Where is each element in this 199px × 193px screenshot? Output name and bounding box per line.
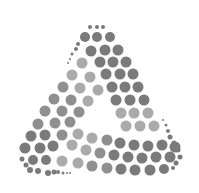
logo-dot (105, 32, 115, 42)
logo-dot (57, 130, 68, 141)
logo-dot (66, 95, 77, 106)
logo-dot (107, 82, 118, 93)
logo-dot (165, 124, 168, 127)
logo-dot (100, 45, 111, 56)
logo-dot (57, 156, 68, 167)
logo-dot (73, 129, 84, 140)
logo-dot (121, 121, 132, 132)
logo-dot (50, 118, 61, 129)
logo-dot (56, 170, 60, 174)
logo-dot (81, 145, 92, 156)
logo-dot (172, 141, 177, 146)
logo-dot (101, 69, 112, 80)
logo-dot (121, 57, 132, 68)
logo-dot (92, 32, 102, 42)
logo-dot (67, 140, 78, 151)
logo-dot (73, 158, 84, 169)
logo-dot (95, 25, 99, 29)
logo-dot (67, 70, 78, 81)
logo-dot (58, 82, 69, 93)
logo-dot (85, 72, 96, 83)
logo-dot (135, 121, 146, 132)
logo-dot (102, 163, 113, 174)
logo-dot (88, 25, 92, 29)
logo-dot (27, 167, 33, 173)
logo-dot (129, 140, 140, 151)
logo-dot (48, 141, 59, 152)
logo-dot (128, 69, 139, 80)
logo-dot (35, 168, 41, 174)
logo-dot (67, 62, 69, 64)
logo-dot (139, 95, 150, 106)
logo-dot (74, 47, 78, 51)
logo-dot (74, 107, 85, 118)
logo-dot (159, 164, 169, 174)
logo-dot (143, 141, 154, 152)
logo-dot (178, 155, 183, 160)
logo-dot (168, 135, 173, 140)
logo-dot (49, 94, 60, 105)
logo-dot (26, 131, 37, 142)
logo-dot (52, 170, 57, 175)
logo-dot (116, 108, 127, 119)
logo-dot (101, 25, 105, 29)
logo-dot (145, 165, 156, 176)
logo-dot (130, 165, 141, 176)
logo-dot (71, 53, 74, 56)
logo-dot (129, 108, 140, 119)
logo-dot (57, 106, 68, 117)
logo-dot (120, 82, 131, 93)
logo-dot (28, 155, 38, 165)
logo-dot (41, 155, 51, 165)
logo-dot (151, 152, 162, 163)
logo-dot (33, 119, 44, 130)
logo-dot (93, 85, 104, 96)
logo-dot (143, 108, 154, 119)
logo-dot (123, 152, 134, 163)
logo-dot (137, 153, 148, 164)
logo-dot (95, 148, 106, 159)
logo-dot (76, 42, 80, 46)
logo-dot (87, 161, 98, 172)
logo-dot (157, 140, 168, 151)
logo-dot (109, 150, 120, 161)
logo-dot (86, 46, 97, 57)
logo-dot (116, 164, 127, 175)
logo-dot (75, 83, 86, 94)
logo-dot (162, 119, 164, 121)
logo-dot (69, 172, 71, 174)
logo-dot (83, 96, 94, 107)
logo-dot (20, 143, 31, 154)
logo-dot (115, 69, 126, 80)
logo-dot (65, 117, 76, 128)
logo-dot (165, 152, 176, 163)
logo-dot (102, 135, 113, 146)
logo-dot (174, 161, 179, 166)
logo-dot (69, 58, 71, 60)
logo-dot (35, 143, 46, 154)
logo-dot (113, 45, 124, 56)
logo-dot (24, 163, 29, 168)
logo-dot (40, 130, 51, 141)
logo-dot (149, 121, 160, 132)
dotted-triangle-logo (0, 0, 199, 193)
logo-dot (166, 129, 170, 133)
logo-dot (171, 166, 175, 170)
logo-dot (95, 57, 106, 68)
logo-dot (125, 95, 136, 106)
logo-dot (20, 157, 25, 162)
logo-dot (115, 138, 126, 149)
logo-dot (176, 148, 181, 153)
logo-dot (40, 106, 51, 117)
logo-dot (77, 58, 88, 69)
logo-dot (66, 172, 68, 174)
logo-dot (108, 57, 119, 68)
logo-dot (133, 82, 144, 93)
logo-dot (87, 133, 98, 144)
logo-dot (111, 95, 122, 106)
logo-dot (62, 172, 65, 175)
logo-dot (80, 32, 90, 42)
logo-dot (45, 170, 51, 176)
